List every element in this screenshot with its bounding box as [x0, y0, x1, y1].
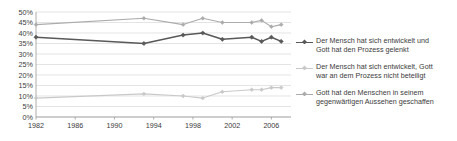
svg-text:1986: 1986 [67, 121, 83, 130]
svg-text:1990: 1990 [106, 121, 122, 130]
svg-text:40%: 40% [19, 29, 34, 38]
legend-item-label: Der Mensch hat sich entwickelt und Gott … [313, 36, 429, 54]
legend-item-label: Gott hat den Menschen in seinem gegenwär… [313, 88, 434, 106]
svg-text:5%: 5% [23, 102, 34, 111]
line-marker-icon [296, 89, 313, 100]
svg-text:2006: 2006 [263, 121, 279, 130]
svg-text:35%: 35% [19, 39, 34, 48]
chart-figure: 0%5%10%15%20%25%30%35%40%45%50% 19821986… [0, 0, 457, 141]
svg-text:50%: 50% [19, 8, 34, 17]
legend-item-label: Der Mensch hat sich entwickelt, Gott war… [313, 62, 433, 80]
series-1 [34, 86, 283, 100]
svg-text:2002: 2002 [224, 121, 240, 130]
data-series-group [34, 16, 283, 100]
svg-text:20%: 20% [19, 71, 34, 80]
line-marker-icon [296, 63, 313, 74]
svg-text:25%: 25% [19, 60, 34, 69]
svg-text:1994: 1994 [146, 121, 162, 130]
legend-item-evolution-god-guided[interactable]: Der Mensch hat sich entwickelt und Gott … [296, 36, 457, 54]
x-axis-tick-labels: 1982198619901994199820022006 [28, 117, 279, 130]
legend-item-evolution-no-god[interactable]: Der Mensch hat sich entwickelt, Gott war… [296, 62, 457, 80]
line-chart-svg: 0%5%10%15%20%25%30%35%40%45%50% 19821986… [0, 0, 300, 141]
svg-text:15%: 15% [19, 81, 34, 90]
y-gridlines [36, 12, 291, 117]
y-axis-tick-labels: 0%5%10%15%20%25%30%35%40%45%50% [19, 8, 34, 122]
svg-text:1982: 1982 [28, 121, 44, 130]
plot-area: 0%5%10%15%20%25%30%35%40%45%50% 19821986… [0, 0, 300, 141]
svg-text:45%: 45% [19, 18, 34, 27]
chart-legend: Der Mensch hat sich entwickelt und Gott … [296, 0, 457, 141]
svg-text:10%: 10% [19, 92, 34, 101]
line-marker-icon [296, 37, 313, 48]
legend-item-god-created[interactable]: Gott hat den Menschen in seinem gegenwär… [296, 88, 457, 106]
svg-text:30%: 30% [19, 50, 34, 59]
svg-text:1998: 1998 [185, 121, 201, 130]
